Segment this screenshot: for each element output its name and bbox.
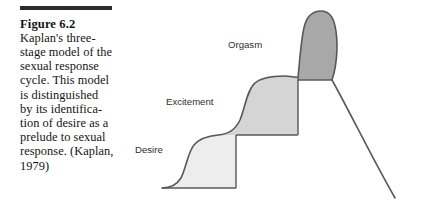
figure-caption-block: Figure 6.2 Kaplan's three- stage model o… <box>20 6 128 173</box>
stage-area-desire <box>162 135 236 188</box>
stage-area-orgasm <box>298 11 337 80</box>
stage-area-excitement <box>218 76 298 135</box>
chart-svg: Desire Excitement Orgasm <box>128 0 423 211</box>
stage-label-orgasm: Orgasm <box>228 39 262 50</box>
caption-top-rule <box>20 6 112 10</box>
stage-label-excitement: Excitement <box>166 96 214 107</box>
figure-number-title: Figure 6.2 <box>20 17 128 31</box>
response-cycle-chart: Desire Excitement Orgasm <box>128 0 423 211</box>
figure-caption-text: Kaplan's three- stage model of the sexua… <box>20 31 128 173</box>
stage-label-desire: Desire <box>135 144 163 155</box>
figure-page: Figure 6.2 Kaplan's three- stage model o… <box>0 0 423 211</box>
